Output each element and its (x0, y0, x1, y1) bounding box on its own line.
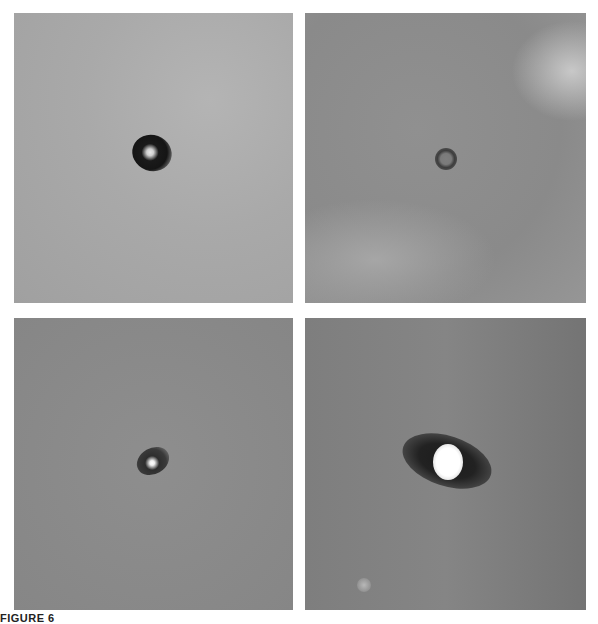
dark-ring-object (127, 129, 177, 177)
dark-halo-object (132, 441, 174, 481)
faint-ring-object (435, 148, 457, 170)
panel-top-right (305, 13, 586, 303)
panel-top-left (14, 13, 293, 303)
bright-core (433, 444, 463, 480)
panel-bottom-left (14, 318, 293, 610)
figure-caption: FIGURE 6 (0, 612, 55, 624)
panel-bottom-right (305, 318, 586, 610)
faint-spot (357, 578, 371, 592)
